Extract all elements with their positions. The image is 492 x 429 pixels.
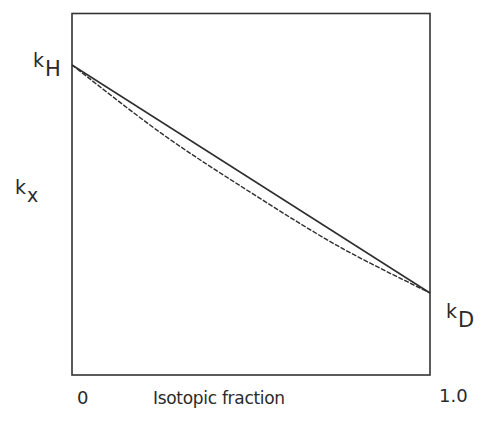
kD-label: kD xyxy=(446,301,474,322)
plot-frame xyxy=(72,14,430,376)
kH-subscript: H xyxy=(45,57,61,81)
kx-axis-label: kx xyxy=(15,178,38,197)
kx-subscript: x xyxy=(27,184,38,206)
series-layer xyxy=(72,65,430,293)
x-axis-title: Isotopic fraction xyxy=(153,390,285,407)
x-tick-0: 0 xyxy=(77,389,88,407)
plot-area xyxy=(0,0,492,429)
kD-subscript: D xyxy=(458,308,474,332)
kD-main: k xyxy=(446,300,457,322)
linear-series-line xyxy=(72,65,430,293)
x-tick-1: 1.0 xyxy=(439,387,468,405)
kH-main: k xyxy=(33,49,44,71)
kx-main: k xyxy=(15,176,26,198)
kH-label: kH xyxy=(33,50,61,71)
